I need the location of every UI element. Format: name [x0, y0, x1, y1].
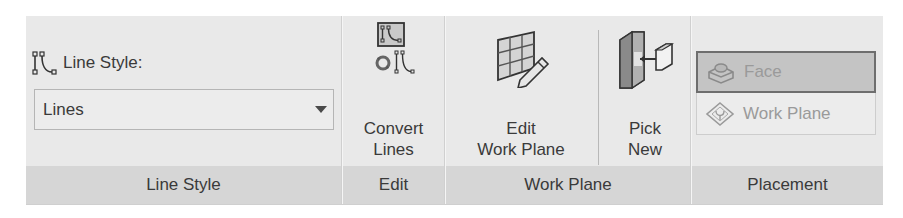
- edit-work-plane-label: Edit Work Plane: [446, 118, 596, 160]
- line-style-label-row: Line Style:: [32, 51, 142, 75]
- panel-line-style-body: Line Style: Lines: [26, 16, 341, 166]
- pick-new-button[interactable]: Pick New: [600, 16, 690, 166]
- pick-new-label: Pick New: [600, 118, 690, 160]
- panel-line-style: Line Style: Lines Line Style: [26, 16, 341, 204]
- panel-placement: Face Work Plane Placement: [692, 16, 883, 204]
- panel-label-work-plane[interactable]: Work Plane: [446, 166, 690, 204]
- dropdown-arrow-icon[interactable]: [315, 106, 327, 113]
- convert-lines-label-line1: Convert: [343, 118, 444, 139]
- ribbon: Line Style: Lines Line Style: [26, 16, 883, 205]
- line-style-dropdown-value: Lines: [43, 100, 84, 120]
- edit-work-plane-button[interactable]: Edit Work Plane: [446, 16, 596, 166]
- panel-label-line-style[interactable]: Line Style: [26, 166, 341, 204]
- convert-lines-button[interactable]: Convert Lines: [343, 16, 444, 166]
- panel-label-edit[interactable]: Edit: [343, 166, 444, 204]
- placement-face-button[interactable]: Face: [696, 51, 876, 93]
- edit-work-plane-label-line1: Edit: [446, 118, 596, 139]
- line-style-dropdown[interactable]: Lines: [34, 89, 334, 130]
- panel-placement-body: Face Work Plane: [692, 16, 883, 166]
- panel-edit: Convert Lines Edit: [343, 16, 444, 204]
- placement-work-plane-button[interactable]: Work Plane: [696, 93, 876, 135]
- convert-lines-label: Convert Lines: [343, 118, 444, 160]
- face-icon: [706, 60, 736, 84]
- panel-work-plane-body: Edit Work Plane Pick Ne: [446, 16, 690, 166]
- placement-work-plane-label: Work Plane: [743, 104, 831, 124]
- convert-lines-label-line2: Lines: [343, 139, 444, 160]
- line-style-label: Line Style:: [63, 53, 142, 73]
- pick-new-label-line1: Pick: [600, 118, 690, 139]
- panel-edit-body: Convert Lines: [343, 16, 444, 166]
- work-plane-icon: [705, 101, 735, 127]
- panel-work-plane: Edit Work Plane Pick Ne: [446, 16, 690, 204]
- pick-new-label-line2: New: [600, 139, 690, 160]
- placement-face-label: Face: [744, 62, 782, 82]
- pick-new-icon: [614, 28, 676, 90]
- convert-lines-icon: [371, 22, 417, 80]
- edit-work-plane-label-line2: Work Plane: [446, 139, 596, 160]
- button-divider: [598, 30, 599, 165]
- panel-label-placement[interactable]: Placement: [692, 166, 883, 204]
- edit-work-plane-icon: [490, 30, 552, 88]
- line-style-icon: [32, 51, 58, 75]
